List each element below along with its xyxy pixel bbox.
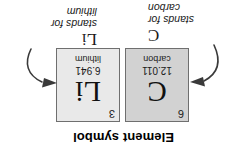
annotation-lithium: Li stands for lithium — [15, 6, 97, 49]
atomic-number-lithium: 3 — [109, 108, 115, 120]
annotation-line2-lithium: lithium — [15, 6, 97, 18]
annotation-carbon: C stands for carbon — [148, 2, 228, 45]
element-symbol-figure: 6 C 12.011 carbon 3 Li 6.941 lithium Ele… — [0, 0, 247, 153]
element-name-carbon: carbon — [126, 53, 188, 64]
figure-caption: Element symbol — [0, 130, 247, 145]
element-box-carbon: 6 C 12.011 carbon — [125, 48, 189, 122]
annotation-symbol-carbon: C — [148, 26, 228, 45]
arrow-carbon-curve — [204, 45, 218, 81]
annotation-line2-carbon: carbon — [148, 2, 228, 14]
annotation-line1-carbon: stands for — [148, 14, 228, 26]
atomic-mass-lithium: 6.941 — [57, 64, 119, 76]
atomic-mass-carbon: 12.011 — [126, 64, 188, 76]
element-symbol-carbon: C — [126, 77, 188, 107]
element-symbol-lithium: Li — [57, 77, 119, 107]
annotation-symbol-lithium: Li — [15, 30, 97, 49]
annotation-line1-lithium: stands for — [15, 18, 97, 30]
arrowhead-carbon-icon — [190, 77, 205, 87]
arrowhead-lithium-icon — [42, 78, 57, 88]
element-box-lithium: 3 Li 6.941 lithium — [56, 48, 120, 122]
arrow-lithium-curve — [27, 49, 42, 82]
element-name-lithium: lithium — [57, 53, 119, 64]
atomic-number-carbon: 6 — [178, 108, 184, 120]
